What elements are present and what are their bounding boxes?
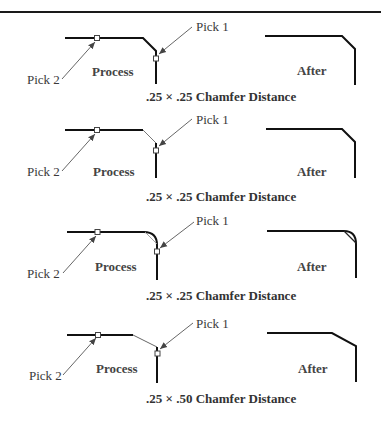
pick2-marker [95, 128, 100, 133]
process-label: Process [95, 259, 137, 275]
pick2-leader [62, 42, 95, 79]
pick2-label: Pick 2 [27, 266, 60, 282]
pick2-label: Pick 2 [29, 368, 62, 384]
pick2-leader [63, 338, 96, 375]
pick1-leader [159, 27, 192, 54]
after-label: After [298, 361, 328, 377]
pick2-label: Pick 2 [27, 164, 60, 180]
caption: .25 × .25 Chamfer Distance [146, 189, 296, 205]
caption: .25 × .25 Chamfer Distance [146, 288, 296, 304]
pick1-leader [160, 222, 194, 248]
after-label: After [297, 259, 327, 275]
after-label: After [297, 63, 327, 79]
pick1-marker [155, 351, 160, 356]
pick1-marker [154, 148, 159, 153]
pick1-label: Pick 1 [196, 316, 229, 332]
process-label: Process [93, 164, 135, 180]
pick1-label: Pick 1 [196, 112, 229, 128]
pick2-label: Pick 2 [27, 72, 60, 88]
pick1-label: Pick 1 [196, 19, 229, 35]
pick1-leader [160, 323, 193, 349]
pick1-label: Pick 1 [196, 213, 229, 229]
pick2-marker [95, 36, 100, 41]
pick2-leader [63, 236, 96, 273]
caption: .25 × .50 Chamfer Distance [146, 391, 296, 407]
pick1-marker [155, 249, 160, 254]
pick2-marker [96, 333, 101, 338]
pick1-leader [159, 119, 192, 146]
pick1-marker [154, 56, 159, 61]
pick2-marker [95, 230, 100, 235]
after-label: After [297, 164, 327, 180]
pick2-leader [62, 134, 95, 171]
process-label: Process [92, 64, 134, 80]
process-label: Process [96, 361, 138, 377]
caption: .25 × .25 Chamfer Distance [146, 89, 296, 105]
